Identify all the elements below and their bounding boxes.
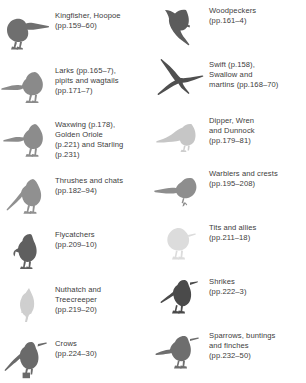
index-entry-sparrows[interactable]: Sparrows, buntings and finches (pp.232–5…: [153, 328, 306, 375]
index-entry-label: Crows (pp.224–30): [54, 336, 97, 359]
index-entry-label: Larks (pp.165–7), pipits and wagtails (p…: [54, 63, 119, 96]
index-entry-label: Swift (p.158), Swallow and martins (pp.1…: [207, 57, 278, 90]
tit-icon: [153, 220, 207, 265]
index-entry-swift[interactable]: Swift (p.158), Swallow and martins (pp.1…: [153, 57, 306, 104]
waxwing-icon: [0, 117, 54, 162]
nuthatch-icon: [0, 282, 54, 327]
index-entry-label: Kingfisher, Hoopoe (pp.159–60): [54, 8, 121, 31]
index-entry-label: Nuthatch and Treecreeper (pp.219–20): [54, 282, 101, 315]
index-entry-label: Woodpeckers (pp.161–4): [207, 3, 256, 26]
flycatcher-icon: [0, 227, 54, 272]
warbler-icon: [153, 166, 207, 211]
index-entry-label: Warblers and crests (pp.195–208): [207, 166, 278, 189]
index-entry-label: Waxwing (p.178), Golden Oriole (p.221) a…: [54, 117, 123, 160]
index-entry-label: Sparrows, buntings and finches (pp.232–5…: [207, 328, 275, 361]
crow-icon: [0, 336, 54, 381]
index-entry-warblers[interactable]: Warblers and crests (pp.195–208): [153, 166, 306, 213]
index-entry-waxwing[interactable]: Waxwing (p.178), Golden Oriole (p.221) a…: [0, 117, 153, 169]
index-entry-flycatchers[interactable]: Flycatchers (pp.209–10): [0, 227, 153, 274]
index-entry-shrikes[interactable]: Shrikes (pp.222–3): [153, 274, 306, 321]
index-entry-label: Flycatchers (pp.209–10): [54, 227, 97, 250]
thrush-icon: [0, 173, 54, 218]
index-entry-label: Tits and allies (pp.211–18): [207, 220, 256, 243]
index-entry-label: Dipper, Wren and Dunnock (pp.179–81): [207, 113, 255, 146]
index-entry-kingfisher[interactable]: Kingfisher, Hoopoe (pp.159–60): [0, 8, 153, 55]
sparrow-icon: [153, 328, 207, 373]
dipper-icon: [153, 113, 207, 158]
index-entry-woodpeckers[interactable]: Woodpeckers (pp.161–4): [153, 3, 306, 50]
shrike-icon: [153, 274, 207, 319]
index-entry-thrushes[interactable]: Thrushes and chats (pp.182–94): [0, 173, 153, 220]
index-entry-crows[interactable]: Crows (pp.224–30): [0, 336, 153, 383]
index-column-left: Kingfisher, Hoopoe (pp.159–60) Larks (pp…: [0, 0, 153, 383]
index-entry-nuthatch[interactable]: Nuthatch and Treecreeper (pp.219–20): [0, 282, 153, 329]
lark-icon: [0, 63, 54, 108]
index-entry-label: Shrikes (pp.222–3): [207, 274, 247, 297]
kingfisher-icon: [0, 8, 54, 53]
woodpecker-icon: [153, 3, 207, 48]
index-entry-tits[interactable]: Tits and allies (pp.211–18): [153, 220, 306, 267]
bird-family-index: Kingfisher, Hoopoe (pp.159–60) Larks (pp…: [0, 0, 306, 383]
index-entry-larks[interactable]: Larks (pp.165–7), pipits and wagtails (p…: [0, 63, 153, 110]
swift-icon: [153, 57, 207, 102]
index-entry-dipper[interactable]: Dipper, Wren and Dunnock (pp.179–81): [153, 113, 306, 160]
index-column-right: Woodpeckers (pp.161–4) Swift (p.158), Sw…: [153, 0, 306, 383]
index-entry-label: Thrushes and chats (pp.182–94): [54, 173, 123, 196]
